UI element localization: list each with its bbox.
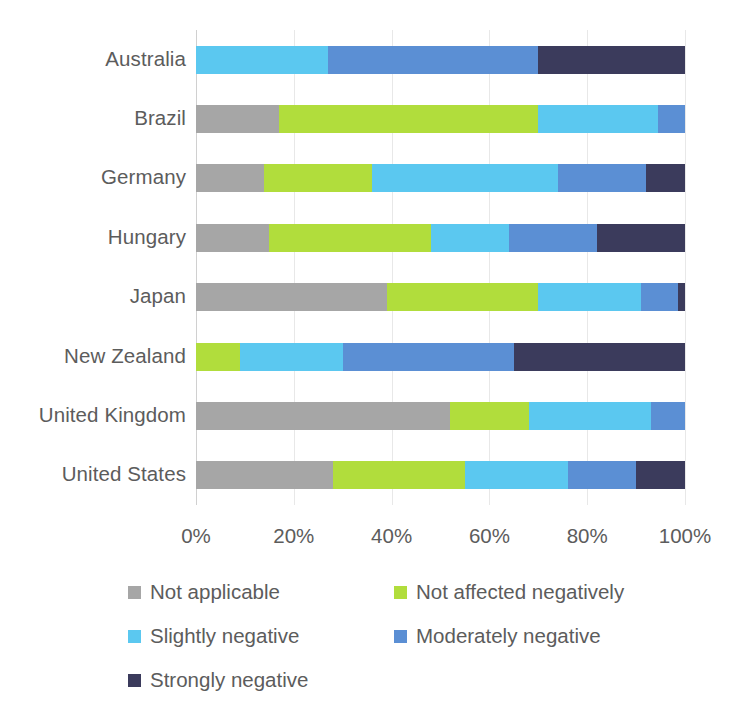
legend-label: Not affected negatively	[416, 582, 624, 603]
bar-segment	[646, 164, 685, 192]
bar-segment	[431, 224, 509, 252]
bar-segment	[196, 283, 387, 311]
bar-segment	[538, 105, 658, 133]
bar-segment	[387, 283, 539, 311]
bar-segment	[196, 402, 450, 430]
bar-segment	[641, 283, 678, 311]
bar-row	[196, 343, 685, 371]
value-axis-tick-label: 40%	[371, 524, 412, 548]
bar-segment	[636, 461, 685, 489]
bar-row	[196, 283, 685, 311]
gridline-20	[294, 30, 295, 505]
bar-segment	[264, 164, 372, 192]
category-label-united-states: United States	[0, 462, 186, 486]
bars-area	[196, 30, 685, 505]
value-axis-line	[196, 30, 197, 505]
gridline-80	[587, 30, 588, 505]
bar-segment	[372, 164, 558, 192]
bar-segment	[651, 402, 685, 430]
bar-segment	[333, 461, 465, 489]
bar-segment	[343, 343, 514, 371]
bar-segment	[465, 461, 568, 489]
bar-row	[196, 46, 685, 74]
category-label-japan: Japan	[0, 284, 186, 308]
bar-segment	[658, 105, 685, 133]
bar-segment	[568, 461, 636, 489]
legend-label: Strongly negative	[150, 670, 308, 691]
bar-segment	[328, 46, 538, 74]
bar-row	[196, 224, 685, 252]
category-label-australia: Australia	[0, 47, 186, 71]
gridline-60	[489, 30, 490, 505]
bar-segment	[509, 224, 597, 252]
category-label-new-zealand: New Zealand	[0, 344, 186, 368]
legend-label: Not applicable	[150, 582, 280, 603]
bar-segment	[538, 46, 685, 74]
plot-area: AustraliaBrazilGermanyHungaryJapanNew Ze…	[0, 30, 729, 525]
bar-row	[196, 461, 685, 489]
value-axis-tick-label: 20%	[273, 524, 314, 548]
bar-segment	[597, 224, 685, 252]
gridline-40	[392, 30, 393, 505]
category-label-united-kingdom: United Kingdom	[0, 403, 186, 427]
category-label-germany: Germany	[0, 165, 186, 189]
bar-segment	[269, 224, 430, 252]
bar-segment	[529, 402, 651, 430]
value-axis: 0%20%40%60%80%100%	[196, 516, 685, 556]
category-label-brazil: Brazil	[0, 106, 186, 130]
bar-segment	[538, 283, 641, 311]
legend-swatch-icon	[128, 586, 141, 599]
legend-item-moderately-negative[interactable]: Moderately negative	[394, 626, 601, 647]
legend-label: Slightly negative	[150, 626, 299, 647]
value-axis-tick-label: 0%	[181, 524, 211, 548]
bar-segment	[279, 105, 538, 133]
legend-item-slightly-negative[interactable]: Slightly negative	[128, 626, 299, 647]
bar-segment	[196, 461, 333, 489]
value-axis-tick-label: 60%	[469, 524, 510, 548]
bar-segment	[196, 343, 240, 371]
bar-segment	[196, 164, 264, 192]
legend-swatch-icon	[128, 674, 141, 687]
bar-segment	[558, 164, 646, 192]
legend-swatch-icon	[128, 630, 141, 643]
legend-item-strongly-negative[interactable]: Strongly negative	[128, 670, 308, 691]
bar-segment	[196, 224, 269, 252]
stacked-bar-chart: AustraliaBrazilGermanyHungaryJapanNew Ze…	[0, 0, 729, 717]
bar-segment	[450, 402, 528, 430]
bar-row	[196, 402, 685, 430]
legend-swatch-icon	[394, 630, 407, 643]
category-axis-labels: AustraliaBrazilGermanyHungaryJapanNew Ze…	[0, 30, 186, 505]
bar-segment	[240, 343, 343, 371]
bar-row	[196, 164, 685, 192]
legend-swatch-icon	[394, 586, 407, 599]
bar-segment	[196, 105, 279, 133]
category-label-hungary: Hungary	[0, 225, 186, 249]
bar-segment	[196, 46, 328, 74]
bar-row	[196, 105, 685, 133]
legend-item-not-affected-negatively[interactable]: Not affected negatively	[394, 582, 624, 603]
chart-legend: Not applicableNot affected negativelySli…	[128, 578, 688, 698]
bar-segment	[514, 343, 685, 371]
bar-segment	[678, 283, 685, 311]
legend-label: Moderately negative	[416, 626, 601, 647]
value-axis-tick-label: 100%	[659, 524, 711, 548]
gridline-100	[685, 30, 686, 505]
legend-item-not-applicable[interactable]: Not applicable	[128, 582, 280, 603]
value-axis-tick-label: 80%	[567, 524, 608, 548]
